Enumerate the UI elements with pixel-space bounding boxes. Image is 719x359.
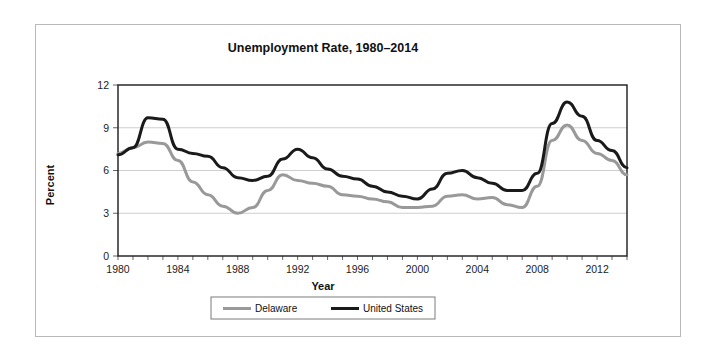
unemployment-rate-line-chart: Unemployment Rate, 1980–2014 Percent Yea… <box>36 25 680 336</box>
chart-legend: DelawareUnited States <box>211 297 435 319</box>
x-tick-label-1988: 1988 <box>226 263 250 275</box>
legend-label-united-states: United States <box>363 303 423 314</box>
series-line-united-states <box>118 102 627 199</box>
x-tick-label-2000: 2000 <box>406 263 430 275</box>
y-tick-label-6: 6 <box>103 164 109 176</box>
y-tick-label-0: 0 <box>103 250 109 262</box>
x-tick-label-1996: 1996 <box>346 263 370 275</box>
x-tick-label-2004: 2004 <box>466 263 490 275</box>
y-tick-label-12: 12 <box>97 79 109 91</box>
series-line-delaware <box>118 125 627 213</box>
x-axis-ticks: 198019841988199219962000200420082012 <box>106 256 627 275</box>
legend-label-delaware: Delaware <box>255 303 298 314</box>
x-tick-label-1992: 1992 <box>286 263 310 275</box>
data-series <box>118 102 627 213</box>
x-tick-label-1984: 1984 <box>166 263 190 275</box>
figure-frame: Unemployment Rate, 1980–2014 Percent Yea… <box>35 24 681 337</box>
x-tick-label-2012: 2012 <box>585 263 609 275</box>
y-axis-label: Percent <box>44 164 56 205</box>
y-tick-label-3: 3 <box>103 207 109 219</box>
y-tick-label-9: 9 <box>103 122 109 134</box>
y-axis-ticks: 036912 <box>97 79 118 262</box>
x-tick-label-2008: 2008 <box>525 263 549 275</box>
x-axis-label: Year <box>311 280 335 292</box>
chart-title: Unemployment Rate, 1980–2014 <box>228 41 418 55</box>
x-tick-label-1980: 1980 <box>106 263 130 275</box>
